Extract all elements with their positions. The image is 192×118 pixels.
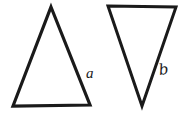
figure-canvas: a b [0,0,192,118]
triangle-up-label: a [86,66,94,81]
triangle-down-shape [108,6,176,106]
triangle-up-shape [13,7,90,106]
triangles-svg [0,0,192,118]
triangle-down-label: b [158,62,170,78]
